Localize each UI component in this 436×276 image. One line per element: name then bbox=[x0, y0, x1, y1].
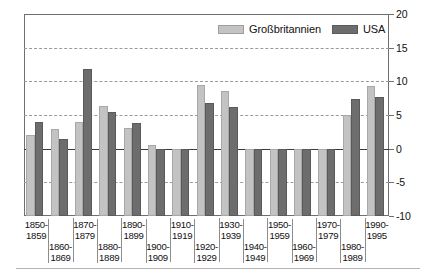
x-label-line-1: 1880- bbox=[98, 241, 121, 252]
x-label-line-2: 1879 bbox=[75, 230, 95, 241]
chart-legend: Großbritannien USA bbox=[218, 23, 385, 35]
bar-usa-10 bbox=[278, 149, 286, 216]
legend-item-usa: USA bbox=[332, 23, 385, 35]
y-tick-label: -5 bbox=[396, 177, 405, 187]
bar-grobritannien-12 bbox=[318, 149, 326, 216]
y-tick-mark bbox=[389, 149, 394, 150]
x-label-line-2: 1969 bbox=[294, 252, 314, 263]
x-axis-label-8: 1930-1939 bbox=[208, 220, 253, 241]
bar-grobritannien-10 bbox=[270, 149, 278, 216]
bar-grobritannien-1 bbox=[51, 129, 59, 216]
x-label-line-1: 1940- bbox=[244, 241, 267, 252]
bar-grobritannien-0 bbox=[26, 135, 34, 216]
legend-label-usa: USA bbox=[363, 23, 385, 35]
x-axis-label-3: 1880-1889 bbox=[87, 242, 132, 263]
bar-usa-0 bbox=[35, 122, 43, 216]
legend-swatch-grossbritannien bbox=[218, 25, 244, 34]
bar-grobritannien-7 bbox=[197, 85, 205, 216]
x-label-line-2: 1909 bbox=[148, 252, 168, 263]
bar-usa-8 bbox=[229, 107, 237, 216]
y-tick-label: 0 bbox=[396, 144, 402, 154]
legend-label-grossbritannien: Großbritannien bbox=[249, 23, 321, 35]
y-tick-mark bbox=[389, 216, 394, 217]
bar-usa-3 bbox=[108, 112, 116, 216]
y-tick-mark bbox=[389, 81, 394, 82]
x-axis-label-14: 1990-1995 bbox=[354, 220, 399, 241]
bar-grobritannien-13 bbox=[343, 115, 351, 216]
x-label-line-1: 1910- bbox=[171, 219, 194, 230]
x-axis-label-11: 1960-1969 bbox=[281, 242, 326, 263]
x-axis-label-5: 1900-1909 bbox=[135, 242, 180, 263]
x-label-line-2: 1995 bbox=[367, 230, 387, 241]
bar-grobritannien-3 bbox=[99, 106, 107, 216]
x-label-line-1: 1980- bbox=[341, 241, 364, 252]
y-tick-mark bbox=[389, 48, 394, 49]
bar-usa-11 bbox=[302, 149, 310, 216]
bar-chart: 20151050-5-10 1850-18591860-18691870-187… bbox=[0, 0, 436, 276]
x-label-line-1: 1930- bbox=[219, 219, 242, 230]
x-axis-label-10: 1950-1959 bbox=[257, 220, 302, 241]
x-label-line-1: 1900- bbox=[146, 241, 169, 252]
x-label-line-1: 1960- bbox=[292, 241, 315, 252]
x-label-line-1: 1860- bbox=[49, 241, 72, 252]
x-axis-label-6: 1910-1919 bbox=[160, 220, 205, 241]
x-label-line-2: 1889 bbox=[99, 252, 119, 263]
x-label-line-2: 1869 bbox=[50, 252, 70, 263]
x-label-line-2: 1899 bbox=[123, 230, 143, 241]
x-label-line-2: 1959 bbox=[269, 230, 289, 241]
x-axis-label-2: 1870-1879 bbox=[62, 220, 107, 241]
legend-swatch-usa bbox=[332, 25, 358, 34]
x-axis-label-1: 1860-1869 bbox=[38, 242, 83, 263]
bar-grobritannien-2 bbox=[75, 122, 83, 216]
y-tick-mark bbox=[389, 182, 394, 183]
x-axis-label-7: 1920-1929 bbox=[184, 242, 229, 263]
bars-layer bbox=[24, 14, 389, 216]
bar-usa-12 bbox=[327, 149, 335, 216]
bar-grobritannien-9 bbox=[245, 149, 253, 216]
x-label-line-2: 1939 bbox=[221, 230, 241, 241]
bar-usa-6 bbox=[181, 149, 189, 216]
bar-grobritannien-8 bbox=[221, 91, 229, 216]
bottom-divider bbox=[16, 268, 420, 269]
bar-usa-9 bbox=[254, 149, 262, 216]
y-tick-label: 15 bbox=[396, 43, 407, 53]
bar-usa-13 bbox=[351, 99, 359, 216]
bar-grobritannien-14 bbox=[367, 86, 375, 216]
x-label-line-2: 1929 bbox=[196, 252, 216, 263]
legend-item-grossbritannien: Großbritannien bbox=[218, 23, 321, 35]
x-label-line-1: 1870- bbox=[73, 219, 96, 230]
x-axis-label-9: 1940-1949 bbox=[233, 242, 278, 263]
x-label-line-2: 1979 bbox=[318, 230, 338, 241]
x-label-line-1: 1920- bbox=[195, 241, 218, 252]
x-label-line-2: 1949 bbox=[245, 252, 265, 263]
bar-usa-5 bbox=[156, 149, 164, 216]
y-tick-mark bbox=[389, 115, 394, 116]
bar-grobritannien-6 bbox=[172, 149, 180, 216]
x-axis-label-4: 1890-1899 bbox=[111, 220, 156, 241]
x-axis-label-12: 1970-1979 bbox=[306, 220, 351, 241]
bar-grobritannien-4 bbox=[124, 128, 132, 216]
x-label-line-2: 1919 bbox=[172, 230, 192, 241]
y-tick-label: 5 bbox=[396, 110, 402, 120]
x-label-line-1: 1850- bbox=[25, 219, 48, 230]
bar-usa-4 bbox=[132, 123, 140, 216]
y-tick-mark bbox=[389, 14, 394, 15]
x-axis-label-0: 1850-1859 bbox=[14, 220, 59, 241]
y-tick-label: 10 bbox=[396, 76, 407, 86]
x-label-line-2: 1989 bbox=[342, 252, 362, 263]
x-label-line-1: 1950- bbox=[268, 219, 291, 230]
bar-usa-2 bbox=[83, 69, 91, 216]
bar-usa-14 bbox=[375, 97, 383, 216]
x-label-line-1: 1970- bbox=[317, 219, 340, 230]
x-label-line-1: 1890- bbox=[122, 219, 145, 230]
bar-usa-7 bbox=[205, 103, 213, 216]
x-axis-label-13: 1980-1989 bbox=[330, 242, 375, 263]
x-label-line-1: 1990- bbox=[365, 219, 388, 230]
bar-usa-1 bbox=[59, 139, 67, 216]
x-label-line-2: 1859 bbox=[26, 230, 46, 241]
bar-grobritannien-11 bbox=[294, 149, 302, 216]
bar-grobritannien-5 bbox=[148, 145, 156, 216]
x-axis-labels: 1850-18591860-18691870-18791880-18891890… bbox=[0, 218, 436, 262]
y-tick-label: 20 bbox=[396, 9, 407, 19]
